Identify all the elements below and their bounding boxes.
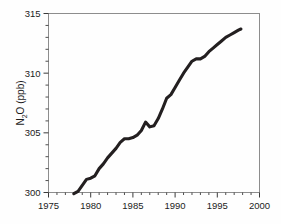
x-tick-label: 1985 (122, 200, 143, 211)
n2o-line-chart: 300305310315 197519801985199019952000 N2… (0, 0, 281, 224)
y-tick-label: 310 (25, 68, 41, 79)
x-tick-label: 2000 (249, 200, 270, 211)
y-tick-label: 300 (25, 187, 41, 198)
y-tick-label: 315 (25, 8, 41, 19)
x-tick-label: 1980 (80, 200, 101, 211)
x-tick-label: 1995 (207, 200, 228, 211)
chart-background (0, 0, 281, 224)
chart-figure: 300305310315 197519801985199019952000 N2… (0, 0, 281, 224)
x-tick-label: 1975 (38, 200, 59, 211)
y-tick-label: 305 (25, 127, 41, 138)
y-axis-title-pre: N (15, 118, 26, 125)
x-tick-label: 1990 (165, 200, 186, 211)
y-axis-title-post: O (ppb) (15, 80, 26, 114)
